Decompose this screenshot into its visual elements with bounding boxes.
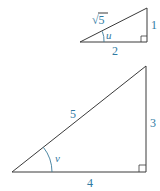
small-angle-arc xyxy=(102,31,104,42)
large-right-angle-marker xyxy=(139,165,146,172)
small-opposite-label: 1 xyxy=(151,18,157,32)
large-opposite-label: 3 xyxy=(150,116,156,130)
small-angle-label: u xyxy=(106,29,112,41)
large-angle-label: v xyxy=(55,152,60,164)
large-triangle: 5 3 4 v xyxy=(12,66,156,190)
large-angle-arc xyxy=(43,147,52,172)
small-triangle: √5 1 2 u xyxy=(80,8,157,58)
large-triangle-outline xyxy=(12,66,146,172)
large-adjacent-label: 4 xyxy=(87,176,93,190)
small-adjacent-label: 2 xyxy=(112,44,118,58)
small-hypotenuse-label: √5 xyxy=(92,13,105,27)
small-right-angle-marker xyxy=(141,36,147,42)
small-triangle-outline xyxy=(80,8,147,42)
large-hypotenuse-label: 5 xyxy=(70,107,76,121)
triangles-diagram: √5 1 2 u 5 3 4 v xyxy=(0,0,160,191)
